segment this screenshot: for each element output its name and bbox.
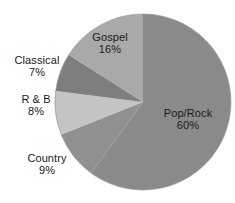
- pie-label-pop-rock: Pop/Rock 60%: [152, 107, 224, 132]
- pie-label-gospel-value: 16%: [82, 43, 138, 55]
- pie-label-country-value: 9%: [14, 164, 80, 176]
- pie-label-pop-rock-value: 60%: [152, 119, 224, 131]
- pie-label-gospel: Gospel 16%: [82, 31, 138, 56]
- pie-label-r-and-b: R & B 8%: [8, 93, 64, 118]
- pie-label-pop-rock-name: Pop/Rock: [152, 107, 224, 119]
- pie-label-country: Country 9%: [14, 152, 80, 177]
- pie-label-r-and-b-value: 8%: [8, 105, 64, 117]
- pie-label-r-and-b-name: R & B: [8, 93, 64, 105]
- pie-label-classical-name: Classical: [3, 54, 71, 66]
- pie-label-gospel-name: Gospel: [82, 31, 138, 43]
- pie-label-classical-value: 7%: [3, 66, 71, 78]
- pie-label-country-name: Country: [14, 152, 80, 164]
- pie-chart-screen: Gospel 16% Pop/Rock 60% Classical 7% R &…: [0, 0, 235, 203]
- pie-label-classical: Classical 7%: [3, 54, 71, 79]
